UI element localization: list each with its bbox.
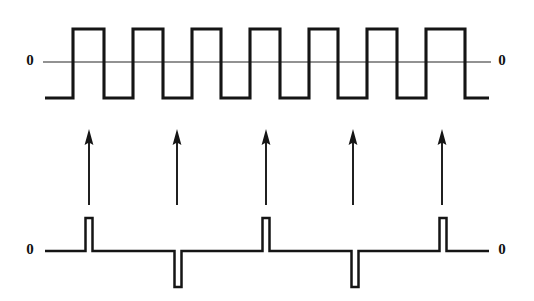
- up-arrow-4: [349, 129, 358, 205]
- up-arrow-1: [85, 129, 94, 205]
- up-arrow-3: [262, 129, 271, 205]
- up-arrow-5: [438, 129, 447, 205]
- up-arrow-2: [173, 129, 182, 205]
- top-waveform-panel: [43, 29, 491, 98]
- spike-pulse-train-trace: [45, 218, 489, 287]
- square-wave-trace: [45, 29, 489, 98]
- bottom-right-zero-label: 0: [498, 241, 506, 257]
- bottom-left-zero-label: 0: [26, 241, 34, 257]
- top-right-zero-label: 0: [498, 52, 506, 68]
- waveform-figure: 0 0 0 0: [0, 0, 534, 301]
- bottom-waveform-panel: [45, 218, 489, 287]
- top-left-zero-label: 0: [26, 52, 34, 68]
- arrow-group: [85, 129, 447, 205]
- waveform-canvas: 0 0 0 0: [0, 0, 534, 301]
